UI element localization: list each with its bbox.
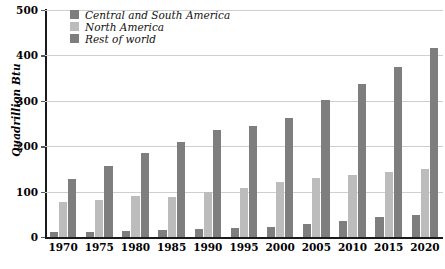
bar [213, 130, 221, 237]
legend-label: Central and South America [85, 9, 230, 21]
x-axis-tick-label: 1990 [193, 241, 222, 253]
bar [348, 175, 356, 237]
bar [430, 48, 438, 237]
bar [195, 229, 203, 237]
bar [240, 188, 248, 237]
bar [375, 217, 383, 237]
bar [141, 153, 149, 237]
x-axis-tick-label: 1975 [85, 241, 114, 253]
x-axis-tick-label: 1985 [157, 241, 186, 253]
bar [358, 84, 366, 237]
bar-group [262, 10, 298, 237]
bar [312, 178, 320, 237]
x-axis-tick-label: 1980 [121, 241, 150, 253]
y-axis-tick-label: 500 [16, 4, 38, 16]
y-axis-tick-label: 200 [16, 140, 38, 152]
legend-label: Rest of world [85, 33, 156, 45]
x-axis-tick-label: 2000 [266, 241, 295, 253]
bar [50, 232, 58, 237]
bar [59, 202, 67, 237]
bar-group [371, 10, 407, 237]
x-axis-line [45, 237, 443, 239]
bar [412, 215, 420, 237]
bar-group [334, 10, 370, 237]
bar [394, 67, 402, 237]
bar [276, 182, 284, 237]
bar [285, 118, 293, 237]
y-axis-tick-label: 400 [16, 49, 38, 61]
x-axis-tick-label: 2005 [302, 241, 331, 253]
legend-item: North America [70, 21, 230, 33]
bar [122, 231, 130, 237]
legend-swatch [70, 22, 79, 31]
bar [158, 230, 166, 237]
chart-legend: Central and South AmericaNorth AmericaRe… [70, 9, 230, 45]
bar-group [226, 10, 262, 237]
bar-group [298, 10, 334, 237]
bar [249, 126, 257, 237]
bar [267, 227, 275, 237]
legend-swatch [70, 10, 79, 19]
bar [131, 196, 139, 237]
legend-item: Central and South America [70, 9, 230, 21]
bar-chart: Quadrillion Btu 0100200300400500 1970197… [0, 0, 445, 269]
bar [95, 200, 103, 237]
bar [177, 142, 185, 237]
x-axis-tick-label: 1995 [229, 241, 258, 253]
y-axis-tick-label: 100 [16, 186, 38, 198]
x-axis-tick-label: 1970 [48, 241, 77, 253]
bar [385, 172, 393, 237]
bar [204, 192, 212, 237]
y-axis-tick [41, 237, 45, 238]
legend-item: Rest of world [70, 33, 230, 45]
y-axis-tick-label: 300 [16, 95, 38, 107]
y-axis-tick-label: 0 [31, 231, 38, 243]
bar [339, 221, 347, 237]
x-axis-tick-label: 2010 [338, 241, 367, 253]
legend-swatch [70, 34, 79, 43]
bar [86, 232, 94, 237]
bar-group [407, 10, 443, 237]
x-axis-tick-label: 2015 [374, 241, 403, 253]
bar [421, 169, 429, 237]
bar [104, 166, 112, 237]
bar [68, 179, 76, 237]
bar [303, 224, 311, 237]
legend-label: North America [85, 21, 164, 33]
x-axis-tick-label: 2020 [410, 241, 439, 253]
bar [321, 100, 329, 237]
bar [231, 228, 239, 237]
bar [168, 197, 176, 237]
